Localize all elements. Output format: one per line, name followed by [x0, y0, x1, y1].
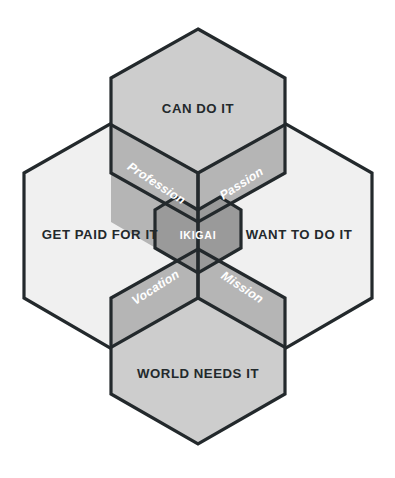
ikigai-venn-svg: CAN DO IT GET PAID FOR IT WANT TO DO IT …	[0, 0, 395, 478]
label-ikigai: IKIGAI	[180, 229, 217, 241]
label-world-needs-it: WORLD NEEDS IT	[137, 366, 259, 381]
label-want-to-do-it: WANT TO DO IT	[246, 227, 353, 242]
label-get-paid-for-it: GET PAID FOR IT	[42, 227, 158, 242]
label-can-do-it: CAN DO IT	[162, 101, 234, 116]
ikigai-diagram: CAN DO IT GET PAID FOR IT WANT TO DO IT …	[0, 0, 395, 478]
